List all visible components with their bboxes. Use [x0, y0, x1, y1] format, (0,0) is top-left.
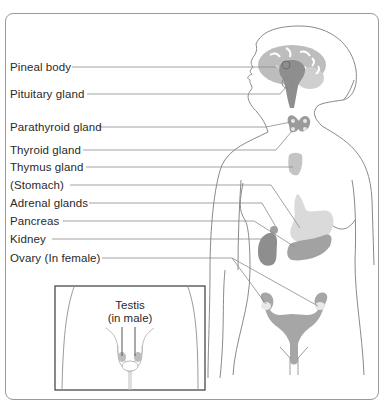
label-pituitary-gland: Pituitary gland: [10, 88, 84, 101]
leader-stomach: [70, 185, 300, 228]
label-testis-line1: Testis: [100, 299, 160, 312]
brain: [258, 45, 326, 108]
label-thymus-gland: Thymus gland: [10, 161, 83, 174]
torso-contour-left: [238, 180, 241, 270]
parathyroid-dot: [291, 119, 295, 123]
label-testis-line2: (in male): [100, 312, 160, 325]
label-pineal-body: Pineal body: [10, 61, 71, 74]
hip-left: [220, 270, 225, 378]
thymus-gland: [288, 153, 302, 176]
label-pancreas: Pancreas: [10, 215, 59, 228]
ovary-left: [261, 302, 271, 310]
parathyroid-dot: [303, 127, 307, 131]
parathyroid-dot: [291, 127, 295, 131]
label-stomach: (Stomach): [10, 179, 64, 192]
leader-lines: [52, 67, 318, 306]
leader-pituitary: [87, 86, 287, 94]
label-ovary: Ovary (In female): [10, 252, 101, 265]
uterus: [261, 292, 328, 375]
leader-adrenal: [89, 203, 276, 227]
breast-right: [320, 180, 364, 375]
ovary-right: [315, 302, 325, 310]
parathyroid-dot: [303, 119, 307, 123]
label-adrenal-glands: Adrenal glands: [10, 197, 88, 210]
thyroid-gland: [288, 115, 311, 132]
label-kidney: Kidney: [10, 233, 46, 246]
leader-parathyroid: [99, 122, 291, 127]
label-testis: Testis (in male): [100, 299, 160, 325]
leader-thyroid: [83, 131, 292, 150]
label-parathyroid-gland: Parathyroid gland: [10, 121, 102, 134]
adrenal-gland: [270, 226, 278, 234]
label-thyroid-gland: Thyroid gland: [10, 144, 81, 157]
kidney: [258, 233, 277, 266]
